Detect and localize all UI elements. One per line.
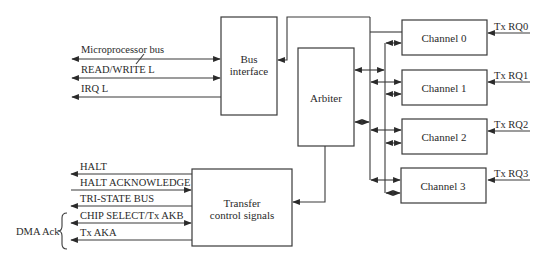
arbiter-block: Arbiter	[298, 48, 354, 146]
channel-2-label: Channel 2	[422, 131, 467, 143]
tx-rq3-label: Tx RQ3	[494, 168, 528, 179]
tx-rq2-label: Tx RQ2	[494, 119, 528, 130]
channel-2-block: Channel 2	[402, 119, 487, 154]
channel-0-block: Channel 0	[402, 20, 487, 55]
irq-label: IRQ L	[81, 83, 108, 94]
bus-interface-block: Bus interface	[221, 17, 277, 115]
channel-1-block: Channel 1	[402, 70, 487, 105]
arbiter-transfer-arrow	[293, 146, 325, 202]
microprocessor-bus-label: Microprocessor bus	[81, 44, 164, 55]
dma-ack-group: DMA Ack	[16, 213, 67, 249]
tri-state-bus-label: TRI-STATE BUS	[80, 193, 154, 204]
channel-0-label: Channel 0	[422, 32, 467, 44]
bus-interface-label-1: Bus	[240, 53, 257, 65]
read-write-label: READ/WRITE L	[81, 64, 155, 75]
tx-rq0-label: Tx RQ0	[494, 21, 528, 32]
tx-request-inputs: Tx RQ0 Tx RQ1 Tx RQ2 Tx RQ3	[488, 21, 530, 180]
channel-1-label: Channel 1	[422, 82, 467, 94]
tx-aka-label: Tx AKA	[80, 227, 117, 238]
transfer-label-2: control signals	[210, 209, 274, 221]
arbiter-label: Arbiter	[310, 92, 342, 104]
bus-interface-label-2: interface	[230, 65, 269, 77]
bus-signal-lines: Microprocessor bus READ/WRITE L IRQ L	[72, 44, 221, 97]
halt-label: HALT	[80, 161, 108, 172]
transfer-label-1: Transfer	[224, 197, 261, 209]
channel-3-label: Channel 3	[421, 180, 466, 192]
transfer-signal-lines: HALT HALT ACKNOWLEDGE TRI-STATE BUS CHIP…	[71, 161, 192, 240]
channel-3-block: Channel 3	[401, 168, 486, 203]
dma-ack-label: DMA Ack	[16, 226, 60, 237]
chip-select-label: CHIP SELECT/Tx AKB	[80, 210, 183, 221]
halt-acknowledge-label: HALT ACKNOWLEDGE	[80, 177, 191, 188]
transfer-control-block: Transfer control signals	[192, 169, 292, 246]
tx-rq1-label: Tx RQ1	[494, 70, 528, 81]
dma-block-diagram: Bus interface Arbiter Transfer control s…	[0, 0, 549, 262]
